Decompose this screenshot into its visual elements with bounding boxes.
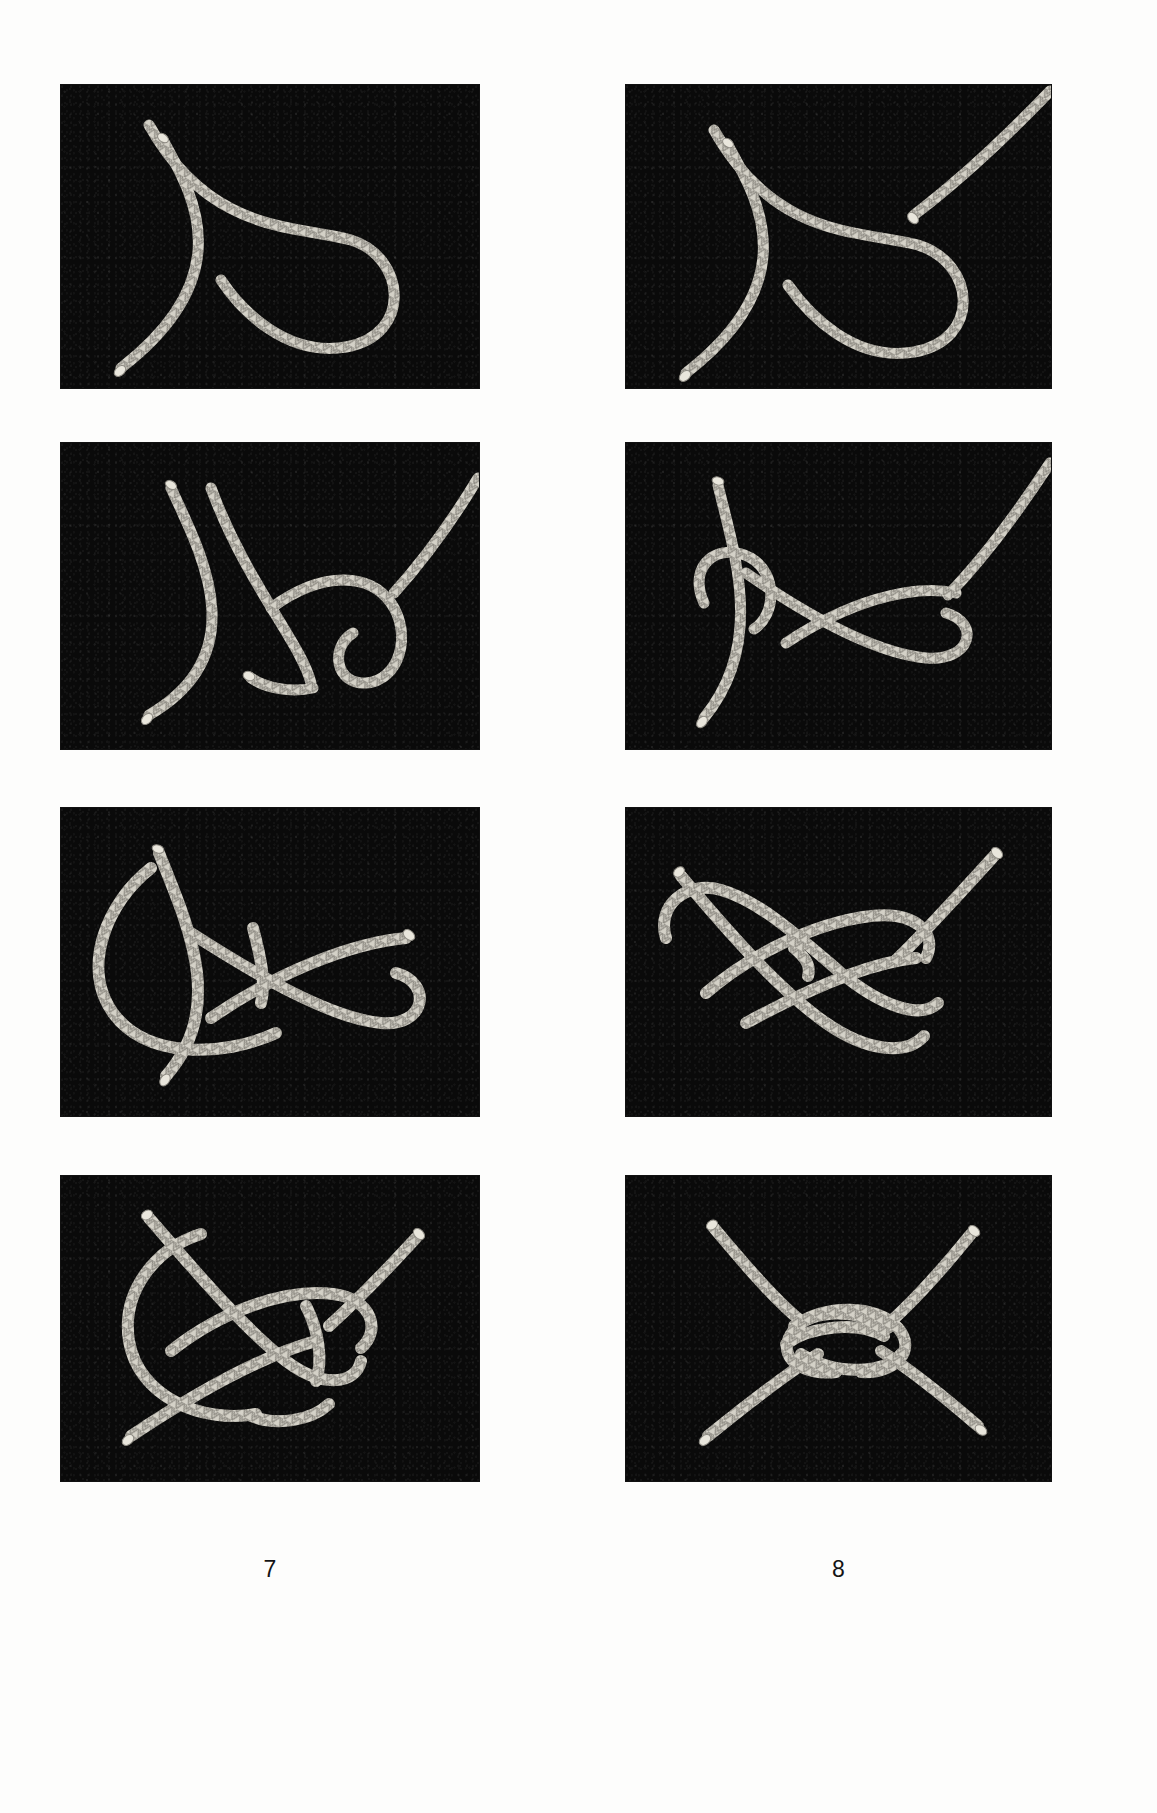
rope-illustration-8 bbox=[626, 1176, 1051, 1481]
rope-illustration-1 bbox=[61, 85, 479, 388]
figure-8-photo bbox=[626, 1176, 1051, 1481]
scanned-page: 1 2 bbox=[0, 0, 1157, 1813]
figure-1-photo bbox=[61, 85, 479, 388]
figure-6-photo bbox=[626, 808, 1051, 1116]
figure-7-caption: 7 bbox=[61, 1558, 479, 1581]
figure-3 bbox=[61, 443, 479, 749]
figure-2 bbox=[626, 85, 1051, 388]
rope-illustration-3 bbox=[61, 443, 479, 749]
figure-4 bbox=[626, 443, 1051, 749]
rope-illustration-5 bbox=[61, 808, 479, 1116]
figure-2-photo bbox=[626, 85, 1051, 388]
figure-1 bbox=[61, 85, 479, 388]
rope-illustration-4 bbox=[626, 443, 1051, 749]
figure-4-photo bbox=[626, 443, 1051, 749]
figure-6 bbox=[626, 808, 1051, 1116]
figure-grid: 1 2 bbox=[0, 0, 1157, 1813]
figure-5-photo bbox=[61, 808, 479, 1116]
figure-8-caption: 8 bbox=[626, 1558, 1051, 1581]
figure-3-photo bbox=[61, 443, 479, 749]
figure-7 bbox=[61, 1176, 479, 1481]
figure-7-photo bbox=[61, 1176, 479, 1481]
rope-illustration-2 bbox=[626, 85, 1051, 388]
rope-illustration-6 bbox=[626, 808, 1051, 1116]
figure-5 bbox=[61, 808, 479, 1116]
rope-illustration-7 bbox=[61, 1176, 479, 1481]
figure-8 bbox=[626, 1176, 1051, 1481]
